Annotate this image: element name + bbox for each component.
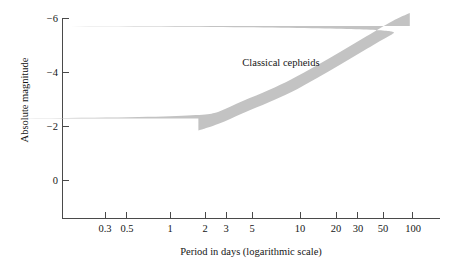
classical-cepheid-band (0, 13, 409, 130)
y-tick-label: −6 (47, 13, 58, 24)
x-tick-label: 3 (223, 223, 228, 234)
x-axis-title: Period in days (logarithmic scale) (180, 246, 322, 258)
x-tick-label: 30 (353, 223, 364, 234)
x-tick-label: 10 (295, 223, 306, 234)
x-tick-label: 2 (202, 223, 207, 234)
y-tick-label: −2 (47, 121, 58, 132)
x-tick-group (106, 212, 413, 219)
y-tick-label: 0 (53, 175, 58, 186)
y-axis-title: Absolute magnitude (19, 57, 30, 142)
period-luminosity-chart: −6 −4 −2 0 0.3 0.5 1 2 3 5 10 20 30 50 1… (0, 0, 455, 267)
x-tick-label: 20 (331, 223, 342, 234)
y-tick-label: −4 (47, 67, 59, 78)
x-tick-label: 1 (167, 223, 172, 234)
y-tick-group (63, 19, 70, 181)
chart-canvas: −6 −4 −2 0 0.3 0.5 1 2 3 5 10 20 30 50 1… (0, 0, 455, 267)
x-tick-label: 100 (405, 223, 421, 234)
x-tick-label: 0.3 (98, 223, 111, 234)
cepheid-annotation-label: Classical cepheids (242, 57, 319, 68)
x-tick-label: 0.5 (120, 223, 133, 234)
x-tick-label: 50 (378, 223, 389, 234)
x-tick-label: 5 (249, 223, 254, 234)
